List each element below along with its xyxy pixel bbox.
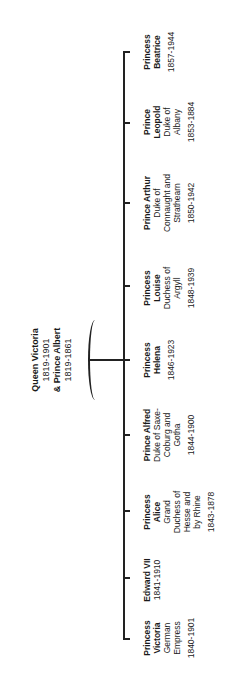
child-prince-alfred: Prince Alfred Duke of Saxe- Coburg and G…	[142, 400, 196, 470]
tick-alice	[123, 510, 130, 512]
parents-node: Queen Victoria 1819-1901 & Prince Albert…	[30, 320, 74, 400]
sibling-line	[123, 51, 125, 640]
tick-louise	[123, 285, 130, 287]
child-princess-louise: Princess Louise Duchess of Argyll 1848-1…	[142, 258, 196, 318]
tick-edward	[123, 577, 130, 579]
child-princess-beatrice: Princess Beatrice 1857-1944	[142, 22, 176, 82]
parent-name-victoria: Queen Victoria	[30, 320, 41, 400]
parent-years-victoria: 1819-1901	[41, 320, 52, 400]
tick-beatrice	[123, 51, 130, 53]
child-princess-victoria: Princess Victoria German Empress 1840-19…	[142, 608, 196, 668]
parent-years-albert: 1819-1861	[63, 320, 74, 400]
tick-victoria	[123, 638, 130, 640]
child-prince-arthur: Prince Arthur Duke of Connaught and Stra…	[142, 166, 196, 240]
parent-name-albert: & Prince Albert	[52, 320, 63, 400]
parent-connector	[90, 359, 124, 361]
child-edward-vii: Edward VII 1841-1910	[142, 550, 162, 610]
tick-helena	[123, 359, 130, 361]
tick-leopold	[123, 122, 130, 124]
child-prince-leopold: Prince Leopold Duke of Albany 1853-1884	[142, 92, 196, 152]
tick-alfred	[123, 434, 130, 436]
child-princess-alice: Princess Alice Grand Duchess of Hesse an…	[142, 479, 216, 545]
child-princess-helena: Princess Helena 1846-1923	[142, 330, 176, 390]
tick-arthur	[123, 202, 130, 204]
